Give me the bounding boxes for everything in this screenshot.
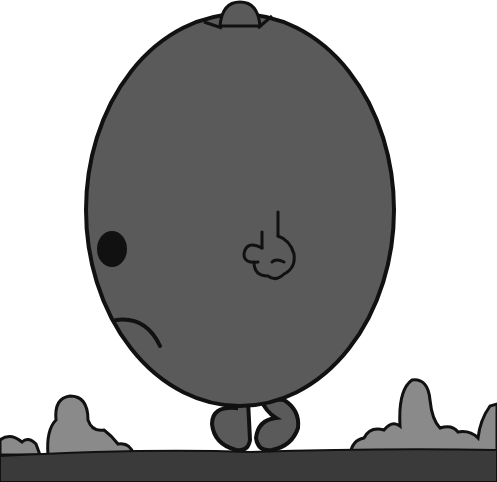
- bush-right: [350, 380, 497, 455]
- eye: [97, 231, 127, 267]
- illustration: [0, 0, 497, 482]
- character-body: [86, 14, 394, 406]
- ground: [0, 449, 497, 482]
- bush-left: [0, 396, 134, 455]
